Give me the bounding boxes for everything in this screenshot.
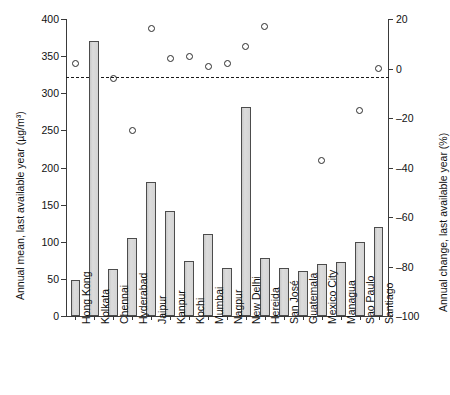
left-tick (61, 56, 66, 57)
x-tick (246, 316, 247, 320)
category-label-managua: Managua (345, 280, 357, 324)
left-tick-label: 400 (26, 14, 59, 24)
x-tick (151, 316, 152, 320)
right-tick-label: –80 (396, 262, 414, 272)
left-tick (61, 316, 66, 317)
x-tick (341, 316, 342, 320)
left-tick (61, 19, 66, 20)
category-label-sao-paulo: Sao Paulo (364, 276, 376, 324)
left-tick (61, 205, 66, 206)
left-tick (61, 130, 66, 131)
right-tick (388, 217, 393, 218)
right-tick (388, 19, 393, 20)
left-tick (61, 279, 66, 280)
x-tick (265, 316, 266, 320)
x-tick (189, 316, 190, 320)
category-label-new-delhi: New Delhi (250, 276, 262, 324)
point-hereida (261, 23, 268, 30)
left-tick-label: 150 (26, 200, 59, 210)
category-label-guatemala: Guatemala (307, 273, 319, 324)
left-tick (61, 93, 66, 94)
right-tick-label: 20 (396, 14, 408, 24)
x-tick (170, 316, 171, 320)
category-label-kolkata: Kolkata (99, 289, 111, 324)
category-label-jaipur: Jaipur (156, 295, 168, 324)
x-tick (208, 316, 209, 320)
category-label-kochi: Kochi (194, 298, 206, 324)
point-kanpur (167, 55, 174, 62)
category-label-nagpur: Nagpur (232, 290, 244, 324)
x-tick (113, 316, 114, 320)
right-tick-label: 0 (396, 64, 402, 74)
right-tick-label: –100 (396, 311, 419, 321)
right-tick (388, 168, 393, 169)
category-label-santiago: Santiago (383, 283, 395, 324)
left-tick (61, 242, 66, 243)
left-tick-label: 300 (26, 88, 59, 98)
left-tick-label: 100 (26, 237, 59, 247)
x-tick (379, 316, 380, 320)
left-tick-label: 350 (26, 51, 59, 61)
left-tick-label: 50 (26, 274, 59, 284)
x-tick (227, 316, 228, 320)
right-tick (388, 69, 393, 70)
point-mumbai (205, 63, 212, 70)
point-sao-paulo (356, 107, 363, 114)
x-tick (94, 316, 95, 320)
left-tick-label: 0 (26, 311, 59, 321)
right-tick (388, 118, 393, 119)
x-tick (284, 316, 285, 320)
left-axis-title: Annual mean, last available year (µg/m³) (14, 111, 26, 300)
left-tick-label: 250 (26, 125, 59, 135)
category-label-mexico-city: Mexico City (326, 270, 338, 324)
left-tick-label: 200 (26, 163, 59, 173)
category-label-hong-kong: Hong Kong (80, 271, 92, 324)
bar-hong-kong (71, 280, 81, 316)
category-label-san-jos-: San José (288, 280, 300, 324)
point-mexico-city (318, 157, 325, 164)
category-label-chennai: Chennai (118, 285, 130, 324)
x-tick (75, 316, 76, 320)
point-jaipur (148, 25, 155, 32)
point-kochi (186, 53, 193, 60)
point-hyderabad (129, 127, 136, 134)
right-tick-label: –20 (396, 113, 414, 123)
category-label-mumbai: Mumbai (213, 287, 225, 324)
point-hong-kong (72, 60, 79, 67)
point-santiago (375, 65, 382, 72)
right-tick-label: –60 (396, 212, 414, 222)
x-tick (303, 316, 304, 320)
right-tick (388, 267, 393, 268)
x-tick (360, 316, 361, 320)
x-tick (322, 316, 323, 320)
right-axis-title: Annual change, last available year (%) (437, 133, 449, 312)
category-label-hereida: Hereida (269, 287, 281, 324)
point-chennai (110, 75, 117, 82)
category-label-hyderabad: Hyderabad (137, 273, 149, 324)
point-nagpur (224, 60, 231, 67)
chart-figure: 050100150200250300350400 –100–80–60–40–2… (0, 0, 450, 395)
left-axis-spine (66, 19, 67, 317)
category-label-kanpur: Kanpur (175, 290, 187, 324)
x-tick (132, 316, 133, 320)
left-tick (61, 168, 66, 169)
right-tick-label: –40 (396, 163, 414, 173)
point-new-delhi (242, 43, 249, 50)
